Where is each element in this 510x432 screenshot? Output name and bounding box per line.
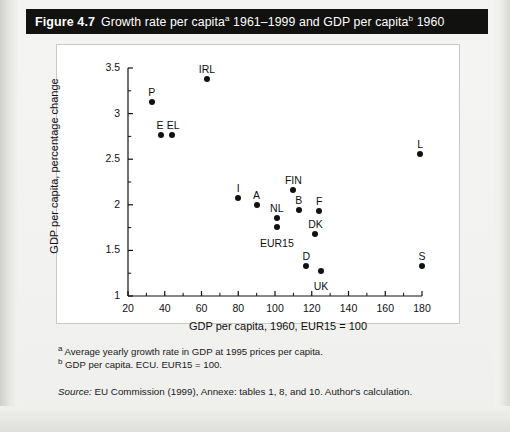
- data-point-label: FIN: [285, 175, 302, 186]
- y-tick-label: 1.5: [80, 243, 120, 255]
- y-tick-label: 3: [80, 107, 120, 119]
- figure-notes: a Average yearly growth rate in GDP at 1…: [58, 346, 478, 371]
- data-point-label: B: [295, 195, 302, 206]
- figure-title-part1: Growth rate per capita: [101, 15, 225, 29]
- data-point: [254, 202, 260, 208]
- data-point: [204, 76, 210, 82]
- note-b-text: GDP per capita. ECU. EUR15 = 100.: [62, 359, 222, 370]
- x-tick-label: 20: [108, 302, 148, 314]
- data-point-label: D: [302, 251, 310, 262]
- data-point: [158, 132, 164, 138]
- data-point-label: A: [253, 190, 260, 201]
- x-tick-label: 160: [365, 302, 405, 314]
- x-tick-label: 100: [255, 302, 295, 314]
- plot-area: [56, 44, 460, 324]
- y-tick-label: 2: [80, 198, 120, 210]
- data-point-label: EUR15: [260, 238, 294, 249]
- figure-container: Figure 4.7 Growth rate per capitaa 1961–…: [0, 0, 510, 432]
- data-point-label: DK: [308, 219, 323, 230]
- y-tick-label: 2.5: [80, 152, 120, 164]
- x-tick-label: 140: [329, 302, 369, 314]
- data-point: [274, 224, 280, 230]
- data-point-label: P: [148, 87, 155, 98]
- data-point: [169, 132, 175, 138]
- data-point-label: NL: [270, 203, 283, 214]
- y-tick-label: 1: [80, 289, 120, 301]
- source-note: Source: EU Commission (1999), Annexe: ta…: [58, 386, 412, 397]
- x-axis-title: GDP per capita, 1960, EUR15 = 100: [118, 320, 438, 332]
- data-point: [417, 151, 423, 157]
- note-a: a Average yearly growth rate in GDP at 1…: [58, 346, 478, 359]
- data-point-label: E: [157, 120, 164, 131]
- y-tick-label: 3.5: [80, 61, 120, 73]
- note-a-text: Average yearly growth rate in GDP at 199…: [62, 346, 322, 357]
- figure-title-part3: 1960: [413, 15, 444, 29]
- figure-title-part2: 1961–1999 and GDP per capita: [229, 15, 408, 29]
- data-point-label: L: [417, 139, 423, 150]
- data-point-label: F: [316, 196, 322, 207]
- page-edge-right: [494, 0, 510, 432]
- figure-title: Growth rate per capitaa 1961–1999 and GD…: [101, 15, 444, 29]
- x-tick-label: 80: [218, 302, 258, 314]
- figure-title-bar: Figure 4.7 Growth rate per capitaa 1961–…: [26, 9, 488, 34]
- x-tick-label: 40: [145, 302, 185, 314]
- page-edge-left: [0, 0, 18, 432]
- data-point-label: IRL: [199, 64, 215, 75]
- source-text: EU Commission (1999), Annexe: tables 1, …: [92, 386, 412, 397]
- x-tick-label: 180: [402, 302, 442, 314]
- x-tick-label: 120: [292, 302, 332, 314]
- data-point-label: EL: [167, 120, 180, 131]
- note-b: b GDP per capita. ECU. EUR15 = 100.: [58, 359, 478, 372]
- data-point: [149, 99, 155, 105]
- data-point-label: S: [418, 251, 425, 262]
- data-point-label: I: [237, 183, 240, 194]
- data-point-label: UK: [314, 281, 329, 292]
- data-point: [419, 263, 425, 269]
- source-label: Source:: [58, 386, 92, 397]
- y-axis-title: GDP per capita, percentage change: [48, 66, 60, 266]
- figure-number: Figure 4.7: [35, 15, 95, 29]
- x-tick-label: 60: [182, 302, 222, 314]
- page-edge-bottom: [0, 406, 510, 432]
